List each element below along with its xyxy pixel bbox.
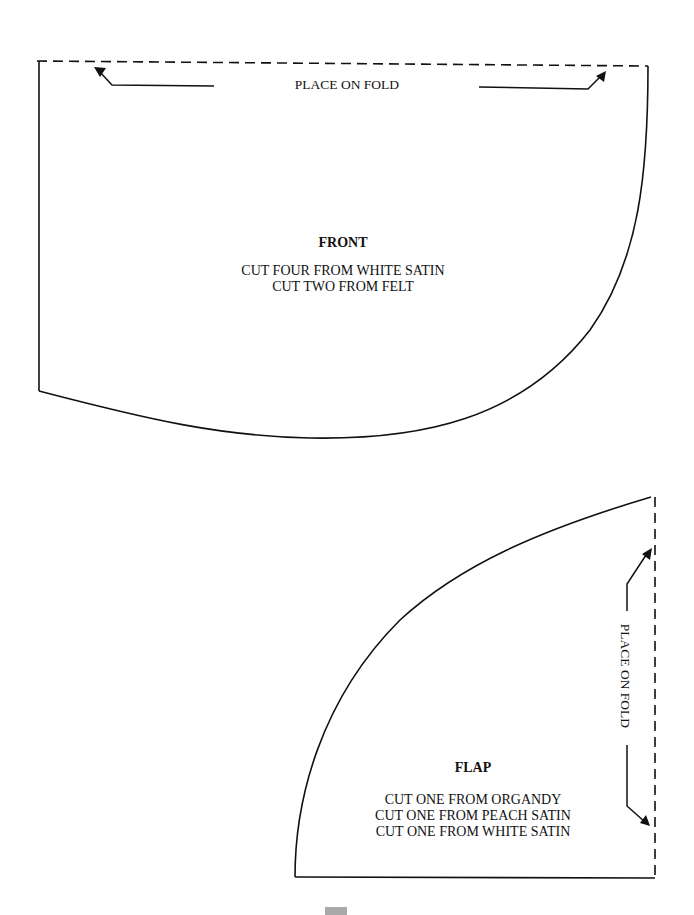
pattern-drawing — [0, 0, 694, 915]
flap-instruction: CUT ONE FROM ORGANDY — [353, 792, 593, 808]
flap-instruction: CUT ONE FROM WHITE SATIN — [353, 824, 593, 840]
arrowhead-icon — [640, 815, 650, 826]
front-instruction: CUT FOUR FROM WHITE SATIN — [193, 263, 493, 279]
flap-title: FLAP — [408, 760, 538, 776]
flap-fold-arrow-bottom — [627, 745, 645, 822]
front-fold-arrow-left — [99, 71, 214, 86]
page-tab-marker — [325, 907, 347, 915]
flap-fold-label: PLACE ON FOLD — [617, 611, 633, 741]
front-fold-arrow-right — [479, 74, 603, 89]
flap-fold-arrow-top — [627, 552, 648, 611]
front-fold-label: PLACE ON FOLD — [230, 77, 464, 93]
front-title: FRONT — [243, 235, 443, 251]
front-instruction: CUT TWO FROM FELT — [193, 279, 493, 295]
flap-bottom-edge — [295, 877, 655, 878]
flap-instruction: CUT ONE FROM PEACH SATIN — [353, 808, 593, 824]
front-fold-line — [37, 61, 648, 66]
front-curved-edge — [39, 66, 648, 438]
